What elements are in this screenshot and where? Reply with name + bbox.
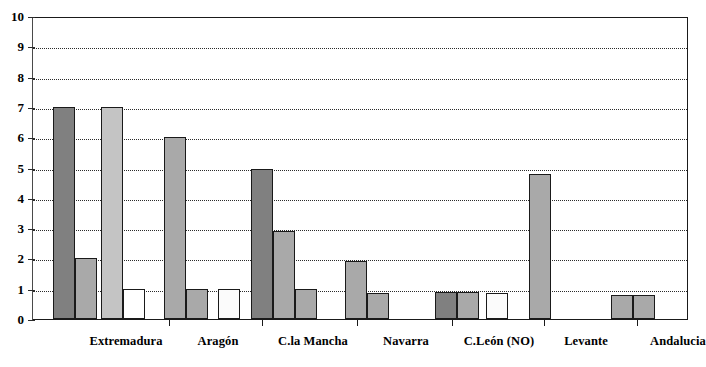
x-axis-tick (169, 320, 170, 326)
gridline (33, 48, 687, 49)
category-label: C.la Mancha (278, 334, 348, 349)
category-label: Andalucia (650, 334, 706, 349)
bar (186, 289, 208, 319)
y-axis-tick (28, 320, 35, 321)
category-label: C.León (NO) (464, 334, 535, 349)
y-axis-tick-label: 1 (2, 283, 24, 296)
bar (633, 295, 655, 319)
y-axis-tick-label: 9 (2, 40, 24, 53)
bar (295, 289, 317, 319)
y-axis-tick-label: 5 (2, 162, 24, 175)
y-axis-tick (28, 138, 35, 139)
bar (611, 295, 633, 319)
gridline (33, 79, 687, 80)
y-axis-tick-label: 4 (2, 192, 24, 205)
bar (101, 107, 123, 319)
x-axis-tick (452, 320, 453, 326)
x-axis-tick (357, 320, 358, 326)
y-axis-tick-label: 8 (2, 71, 24, 84)
category-label: Extremadura (89, 334, 162, 349)
gridline (33, 200, 687, 201)
y-axis-tick (28, 290, 35, 291)
gridline (33, 139, 687, 140)
plot-area (32, 17, 688, 320)
bar (164, 137, 186, 319)
y-axis-tick-label: 2 (2, 252, 24, 265)
category-label: Aragón (198, 334, 239, 349)
y-axis-tick-label: 3 (2, 222, 24, 235)
y-axis-tick-label: 6 (2, 131, 24, 144)
y-axis-tick (28, 259, 35, 260)
bar (529, 174, 551, 319)
y-axis-tick-label: 10 (2, 10, 24, 23)
gridline (33, 170, 687, 171)
bar (53, 107, 75, 319)
bar (273, 231, 295, 319)
x-axis-tick (637, 320, 638, 326)
category-label: Levante (564, 334, 608, 349)
y-axis-tick (28, 78, 35, 79)
bar (435, 292, 457, 319)
gridline (33, 109, 687, 110)
bar (486, 293, 508, 319)
y-axis-tick (28, 169, 35, 170)
y-axis-tick (28, 17, 35, 18)
y-axis-tick (28, 199, 35, 200)
y-axis-tick (28, 108, 35, 109)
bar (457, 292, 479, 319)
bar (218, 289, 240, 319)
gridline (33, 230, 687, 231)
x-axis-tick (262, 320, 263, 326)
bar (75, 258, 97, 319)
bar (123, 289, 145, 319)
y-axis-tick (28, 47, 35, 48)
y-axis-tick-label: 0 (2, 313, 24, 326)
bar (251, 169, 273, 319)
y-axis-tick (28, 229, 35, 230)
category-label: Navarra (383, 334, 429, 349)
y-axis-tick-label: 7 (2, 101, 24, 114)
bar (367, 293, 389, 319)
y-axis-labels: 109876543210 (0, 0, 28, 367)
bar (345, 261, 367, 319)
x-axis-tick (544, 320, 545, 326)
